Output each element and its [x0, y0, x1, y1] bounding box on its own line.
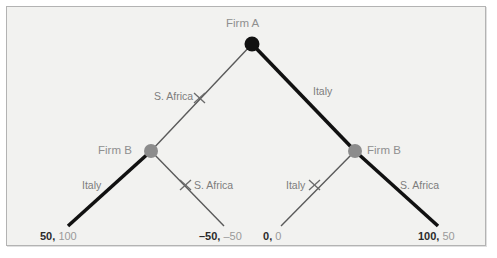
- strike-mark-left-firmb-right-branch: [180, 180, 191, 190]
- game-tree-canvas: [0, 0, 497, 258]
- edge-left-firmb-to-payoff-2: [151, 151, 224, 226]
- game-tree-figure: Firm A Firm B Firm B S. Africa Italy Ita…: [0, 0, 497, 258]
- node-left-firm-b: [144, 144, 158, 158]
- node-right-firm-b: [348, 144, 362, 158]
- strike-mark-root-left-branch: [194, 93, 205, 103]
- edge-right-firmb-to-payoff-4: [355, 151, 438, 226]
- edge-root-to-right-firmb: [252, 44, 355, 151]
- node-root-firm-a: [245, 37, 260, 52]
- edge-root-to-left-firmb: [151, 44, 252, 151]
- edge-left-firmb-to-payoff-1: [68, 151, 151, 226]
- strike-mark-right-firmb-left-branch: [309, 180, 320, 190]
